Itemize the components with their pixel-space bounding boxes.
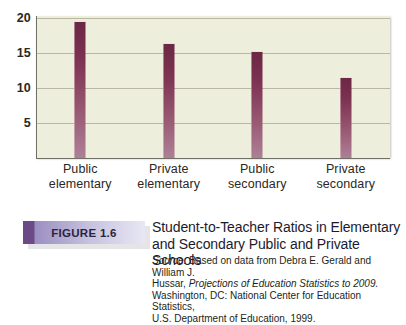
bar-slot-private-secondary (302, 16, 391, 158)
ytick-label-5: 5 (24, 116, 31, 130)
x-label-line2: elementary (125, 177, 214, 192)
source-line-3: Washington, DC: National Center for Educ… (152, 290, 404, 313)
x-label-line1: Private (149, 162, 189, 176)
source-line-1: Source: Based on data from Debra E. Gera… (152, 255, 404, 278)
source-line-2-prefix: Hussar, (152, 278, 189, 289)
x-label-private-elementary: Private elementary (125, 162, 214, 191)
bar-slot-private-elementary (125, 16, 214, 158)
y-axis-line (36, 16, 37, 159)
source-label: Source: (152, 255, 186, 266)
ytick-label-10: 10 (17, 81, 31, 95)
x-label-line2: secondary (302, 177, 391, 192)
figure-source: Source: Based on data from Debra E. Gera… (152, 255, 404, 325)
figure-caption: FIGURE 1.6 Student-to-Teacher Ratios in … (0, 214, 406, 313)
chart-plot-area: 20 15 10 5 (36, 16, 390, 158)
bar-private-secondary[interactable] (340, 78, 351, 158)
bar-slot-public-secondary (213, 16, 302, 158)
figure-title-line1: Student-to-Teacher Ratios in Elementary (152, 219, 400, 235)
x-axis-line (36, 158, 390, 159)
bar-public-elementary[interactable] (75, 22, 86, 159)
x-label-line2: elementary (36, 177, 125, 192)
x-label-private-secondary: Private secondary (302, 162, 391, 191)
ytick-label-15: 15 (17, 46, 31, 60)
x-axis-labels: Public elementary Private elementary Pub… (36, 162, 390, 191)
x-label-line1: Public (63, 162, 98, 176)
figure-chart: 20 15 10 5 Public (0, 0, 406, 212)
ytick-label-20: 20 (17, 11, 31, 25)
bar-series (36, 16, 390, 158)
source-publication-title: Projections of Education Statistics to 2… (189, 278, 379, 289)
bar-private-elementary[interactable] (163, 44, 174, 158)
bar-slot-public-elementary (36, 16, 125, 158)
bar-public-secondary[interactable] (252, 52, 263, 158)
x-label-line2: secondary (213, 177, 302, 192)
x-label-line1: Private (326, 162, 366, 176)
figure-number-label: FIGURE 1.6 (23, 221, 145, 244)
source-line-2: Hussar, Projections of Education Statist… (152, 278, 404, 290)
x-label-public-secondary: Public secondary (213, 162, 302, 191)
x-label-line1: Public (240, 162, 275, 176)
source-line-4: U.S. Department of Education, 1999. (152, 313, 404, 325)
x-label-public-elementary: Public elementary (36, 162, 125, 191)
